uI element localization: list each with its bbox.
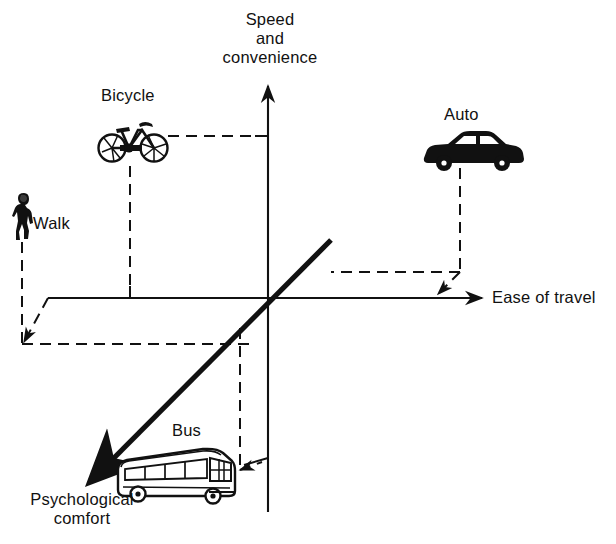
pedestrian-icon xyxy=(12,193,33,240)
auto-to-x-axis xyxy=(438,272,460,294)
bus-projection-lines xyxy=(240,328,262,470)
walk-to-origin-plane xyxy=(24,298,48,342)
diagram-canvas xyxy=(0,0,616,544)
x-axis-title: Ease of travel xyxy=(492,288,596,307)
z-axis-title: Psychological comfort xyxy=(4,490,160,528)
auto-label: Auto xyxy=(444,105,479,124)
bus-label: Bus xyxy=(172,421,201,440)
transport-perception-diagram: Speed and convenience Ease of travel Psy… xyxy=(0,0,616,544)
walk-label: Walk xyxy=(33,214,70,233)
z-axis-line xyxy=(90,240,331,482)
auto-projection-lines xyxy=(331,168,460,294)
bicycle-label: Bicycle xyxy=(101,86,155,105)
car-icon xyxy=(424,131,524,171)
y-axis-title: Speed and convenience xyxy=(208,10,332,67)
walk-projection-lines xyxy=(22,242,250,344)
z-axis-tick-bus xyxy=(244,458,268,465)
bicycle-icon xyxy=(99,122,168,162)
